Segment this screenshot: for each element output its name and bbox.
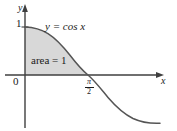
y-tick-label-one: 1	[16, 18, 22, 29]
plot-canvas	[0, 0, 177, 131]
pi-numerator: π	[82, 78, 96, 86]
x-tick-label-pi-over-two: π 2	[82, 78, 96, 97]
two-denominator: 2	[82, 88, 96, 96]
y-axis-arrowhead	[22, 4, 28, 12]
y-axis-label: y	[18, 3, 22, 13]
curve-equation-label: y = cos x	[45, 21, 85, 32]
x-axis-label: x	[161, 76, 165, 86]
origin-label: 0	[13, 76, 19, 87]
shaded-area-region	[25, 27, 88, 75]
cosine-area-figure: y x 1 0 y = cos x area = 1 π 2	[0, 0, 177, 131]
area-annotation-label: area = 1	[31, 55, 67, 66]
